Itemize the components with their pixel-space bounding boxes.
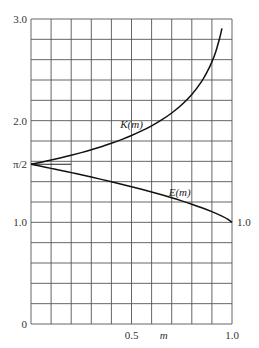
x-axis-tick-labels: 0.51.0	[125, 329, 240, 341]
curve-label: K(m)	[119, 118, 143, 131]
y-tick-label: 3.0	[13, 13, 27, 25]
curve-label: E(m)	[168, 186, 191, 199]
curve-annotations: K(m)E(m)1.0	[119, 118, 251, 229]
x-tick-label: 1.0	[225, 329, 239, 341]
y-axis-tick-labels: 01.0π/22.03.0	[13, 13, 28, 330]
elliptic-integrals-chart: 01.0π/22.03.0 0.51.0 m K(m)E(m)1.0	[0, 0, 259, 348]
grid	[31, 19, 232, 324]
e-end-value-label: 1.0	[237, 216, 251, 228]
x-tick-label: 0.5	[125, 329, 139, 341]
x-axis-title: m	[160, 329, 168, 341]
y-tick-label: 2.0	[13, 115, 27, 127]
curve-km	[31, 28, 222, 164]
y-tick-label: 0	[22, 318, 28, 330]
y-tick-label: π/2	[13, 158, 27, 170]
y-tick-label: 1.0	[13, 216, 27, 228]
